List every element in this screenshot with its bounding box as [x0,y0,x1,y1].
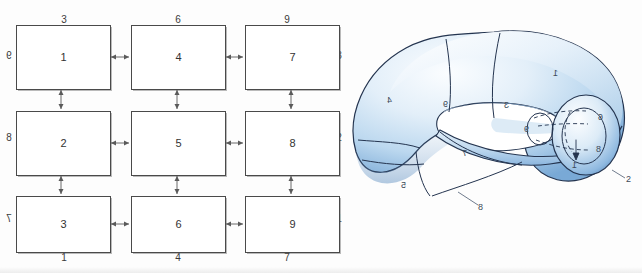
torus-label-2-leader: 2 [626,174,631,184]
torus-label-1: 1 [572,160,577,170]
torus-label-7: 7 [462,148,467,158]
torus-illustration [344,0,642,273]
torus-figure-panel: 4 9 3 9 1 7 5 8 6 8 1 2 [344,0,642,273]
torus-label-5: 5 [401,180,406,190]
figure-page: 3 6 9 1 4 7 9 8 7 3 2 1 1 4 7 2 5 8 [0,0,642,273]
torus-label-8-leader: 8 [478,202,483,212]
torus-label-1-top: 1 [553,68,558,78]
grid-diagram-panel: 3 6 9 1 4 7 9 8 7 3 2 1 1 4 7 2 5 8 [0,0,344,273]
torus-label-9-tube: 9 [524,124,529,134]
torus-label-4: 4 [387,95,392,105]
torus-leader-lines [458,170,625,205]
torus-label-9-inner: 9 [443,99,448,109]
torus-label-6: 6 [598,112,603,122]
torus-label-3: 3 [504,100,509,110]
torus-label-8: 8 [596,144,601,154]
grid-connector-arrows [0,0,344,273]
